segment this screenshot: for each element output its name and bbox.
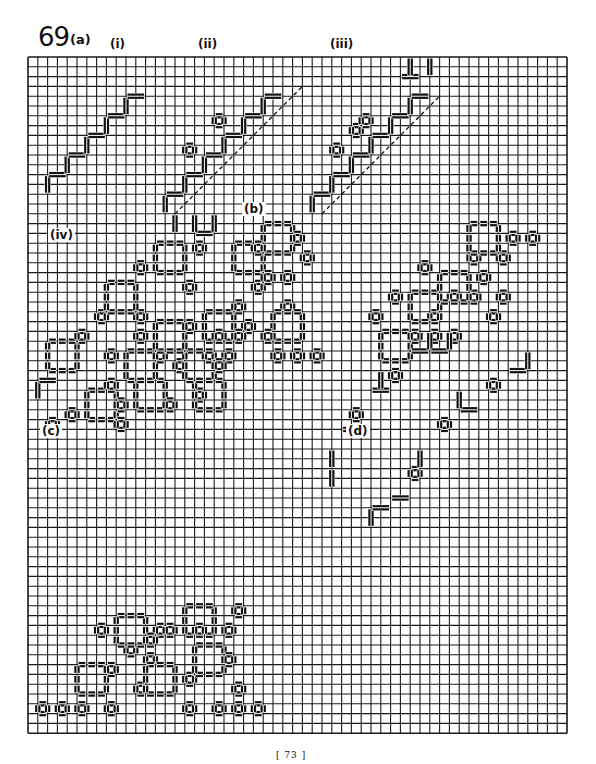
label-iv: (iv) bbox=[48, 228, 75, 242]
label-b: (b) bbox=[242, 202, 266, 216]
label-d: (d) bbox=[346, 424, 370, 438]
page-number: [ 73 ] bbox=[276, 750, 306, 760]
stitch-patterns bbox=[35, 58, 541, 717]
stitch-grid-diagram bbox=[0, 0, 596, 764]
label-c: (c) bbox=[40, 424, 62, 438]
